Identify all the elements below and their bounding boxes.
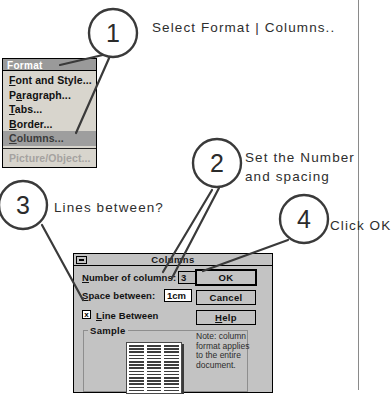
menu-label-columns: olumns... [17,132,64,144]
columns-dialog[interactable]: Columns Number of columns: 3 Space betwe… [73,253,273,393]
callout-number-4: 4 [292,207,316,232]
line-between-label[interactable]: Line Between [96,310,158,321]
number-of-columns-accel: N [82,272,89,283]
callout-3-text: Lines between? [54,198,164,217]
page-margin-rule [358,0,359,390]
dialog-body: Number of columns: 3 Space between: 1cm … [74,266,272,393]
format-menu-title[interactable]: Format [3,59,96,71]
menu-item-font-and-style[interactable]: Font and Style... [3,73,96,88]
cancel-button[interactable]: Cancel [196,290,256,305]
menu-label-picture-object: Picture/Object... [9,152,91,164]
dialog-titlebar[interactable]: Columns [74,254,272,266]
menu-item-picture-object: Picture/Object... [3,151,96,166]
callout-2-text-line2: and spacing [245,167,330,186]
sample-legend: Sample [88,325,128,336]
space-between-label-rest: pace between: [88,290,155,301]
line-between-label-rest: ine Between [102,310,159,321]
space-between-label: Space between: [82,290,155,301]
ok-button[interactable]: OK [196,270,256,285]
menu-item-border[interactable]: Border... [3,117,96,132]
sample-column [129,345,144,391]
sample-column [164,345,179,391]
menu-item-paragraph[interactable]: Paragraph... [3,88,96,103]
sample-preview [126,342,182,394]
menu-label-tabs: abs... [15,103,42,115]
callout-2-text-line1: Set the Number [245,148,355,167]
callout-1-text: Select Format | Columns.. [152,18,335,37]
line-between-checkbox[interactable]: x [82,310,91,319]
number-of-columns-label: Number of columns: [82,272,176,283]
number-of-columns-label-rest: umber of columns: [89,272,176,283]
menu-label-border: order... [17,118,53,130]
callout-number-1: 1 [101,21,125,46]
dialog-title: Columns [74,254,272,265]
sample-column [147,345,162,391]
menu-accel-columns: C [9,132,17,144]
dialog-note: Note: column format applies to the entir… [196,332,254,370]
menu-label-paragraph-post: ragraph... [22,89,71,101]
menu-label-font-and-style: ont and Style... [16,74,92,86]
format-menu[interactable]: Format Font and Style... Paragraph... Ta… [2,58,97,168]
callout-number-2: 2 [205,151,229,176]
menu-item-columns[interactable]: Columns... [3,131,96,146]
menu-separator [3,148,96,149]
help-label-rest: elp [222,312,237,323]
format-menu-list: Font and Style... Paragraph... Tabs... B… [3,71,96,167]
help-button[interactable]: Help [196,310,256,325]
callout-4-text: Click OK [330,216,391,235]
space-between-input[interactable]: 1cm [164,289,192,302]
menu-item-tabs[interactable]: Tabs... [3,102,96,117]
menu-accel-border: B [9,118,17,130]
callout-number-3: 3 [11,193,35,218]
